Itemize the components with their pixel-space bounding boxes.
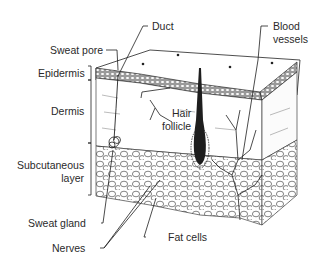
layer-brackets (88, 66, 91, 195)
label-sweat-gland: Sweat gland (28, 217, 86, 229)
label-epidermis: Epidermis (38, 67, 85, 79)
label-hair-follicle-line1: Hair (172, 107, 191, 119)
label-hair-follicle-line2: follicle (162, 120, 191, 132)
label-sweat-pore: Sweat pore (50, 44, 103, 56)
label-duct: Duct (152, 20, 174, 32)
label-subcutaneous-line1: Subcutaneous (17, 159, 84, 171)
label-dermis: Dermis (51, 105, 84, 117)
label-blood-vessels-line2: vessels (273, 33, 308, 45)
label-blood-vessels-line1: Blood (273, 20, 300, 32)
skin-diagram: Duct Blood vessels Sweat pore Epidermis … (0, 0, 321, 269)
label-nerves: Nerves (52, 242, 85, 254)
label-fat-cells: Fat cells (168, 231, 207, 243)
label-subcutaneous-line2: layer (17, 172, 84, 184)
